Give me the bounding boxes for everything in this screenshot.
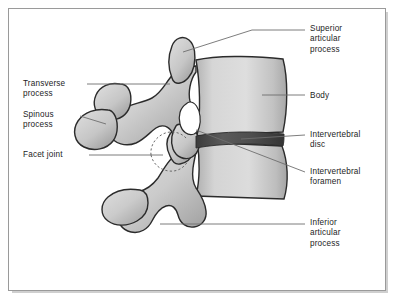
spinous-process bbox=[75, 109, 118, 149]
figure-page: Superior articular process Body Interver… bbox=[0, 0, 396, 301]
intervertebral-foramen bbox=[179, 102, 200, 135]
label-intervertebral-disc: Intervertebral disc bbox=[310, 130, 361, 151]
label-intervertebral-foramen: Intervertebral foramen bbox=[310, 167, 361, 188]
label-inferior-articular-process: Inferior articular process bbox=[310, 218, 341, 249]
label-superior-articular-process: Superior articular process bbox=[310, 24, 342, 55]
label-facet-joint: Facet joint bbox=[23, 150, 63, 160]
leader-superior-articular-process bbox=[183, 30, 305, 52]
label-body: Body bbox=[310, 91, 329, 101]
superior-vertebra-body bbox=[196, 56, 287, 136]
label-transverse-process: Transverse process bbox=[23, 79, 65, 100]
label-spinous-process: Spinous process bbox=[23, 110, 54, 131]
inferior-vertebra-body bbox=[196, 142, 287, 199]
